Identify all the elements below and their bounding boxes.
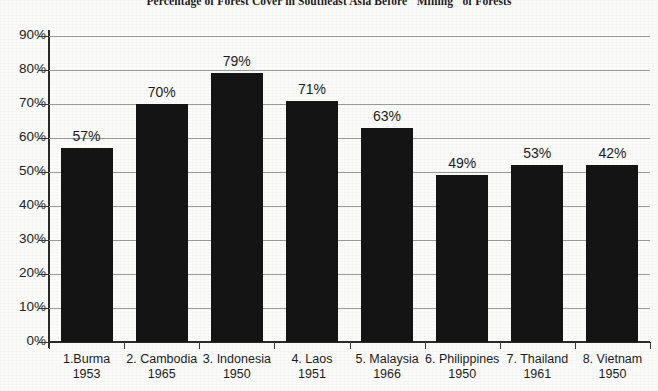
y-axis-tick-label: 70% <box>2 95 46 110</box>
bar-value-label: 70% <box>132 84 192 100</box>
bar <box>136 104 188 342</box>
bar <box>61 148 113 342</box>
x-axis-tick <box>274 342 275 349</box>
bar-value-label: 53% <box>507 145 567 161</box>
x-axis-tick <box>650 342 651 349</box>
y-axis-tick-labels: 0%10%20%30%40%50%60%70%80%90% <box>0 0 46 391</box>
bar <box>286 101 338 342</box>
category-year: 1950 <box>560 367 658 382</box>
chart-title: Percentage of Forest Cover in Southeast … <box>0 0 658 9</box>
bar <box>586 165 638 342</box>
plot-area <box>49 36 650 342</box>
y-axis-tick-label: 10% <box>2 299 46 314</box>
bar <box>511 165 563 342</box>
bar-value-label: 42% <box>582 145 642 161</box>
bar <box>361 128 413 342</box>
y-axis-tick-label: 0% <box>2 333 46 348</box>
x-axis-tick <box>425 342 426 349</box>
bar-value-label: 63% <box>357 108 417 124</box>
y-axis-tick-label: 30% <box>2 231 46 246</box>
x-axis-tick <box>575 342 576 349</box>
gridline <box>49 36 650 37</box>
y-axis-tick-label: 20% <box>2 265 46 280</box>
y-axis-tick-label: 60% <box>2 129 46 144</box>
bar-value-label: 79% <box>207 53 267 69</box>
bar <box>436 175 488 342</box>
x-axis-tick <box>199 342 200 349</box>
x-axis-tick <box>350 342 351 349</box>
category-name: 8. Vietnam <box>560 352 658 367</box>
y-axis-tick-label: 40% <box>2 197 46 212</box>
x-axis-tick <box>500 342 501 349</box>
x-axis-tick <box>124 342 125 349</box>
bar-value-label: 71% <box>282 81 342 97</box>
bar <box>211 73 263 342</box>
y-axis-tick-label: 50% <box>2 163 46 178</box>
bar-value-label: 57% <box>57 128 117 144</box>
y-axis-tick-label: 90% <box>2 27 46 42</box>
bar-value-label: 49% <box>432 155 492 171</box>
x-axis-tick <box>49 342 50 349</box>
gridline <box>49 70 650 71</box>
y-axis-tick-label: 80% <box>2 61 46 76</box>
x-axis-category-label: 8. Vietnam1950 <box>560 352 658 382</box>
